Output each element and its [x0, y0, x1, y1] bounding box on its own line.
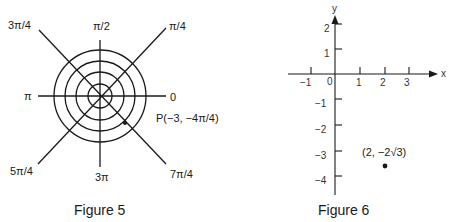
- label-3pi4: 3π/4: [8, 19, 31, 31]
- x-tick-label-1: 1: [356, 77, 362, 88]
- x-axis-label: x: [441, 68, 446, 79]
- label-pi2: π/2: [93, 20, 110, 32]
- label-zero: 0: [170, 91, 176, 103]
- x-tick-label--1: −1: [300, 77, 312, 88]
- label-7pi4: 7π/4: [170, 168, 193, 180]
- y-axis-arrow-icon: [332, 15, 339, 24]
- label-3pi: 3π: [95, 171, 109, 183]
- y-tick-label-2: 2: [324, 23, 330, 34]
- x-tick-label-2: 2: [380, 77, 386, 88]
- label-pi4: π/4: [169, 20, 186, 32]
- point-p-label: P(−3, −4π/4): [156, 112, 219, 124]
- figure-5: [38, 28, 166, 167]
- point-label: (2, −2√3): [362, 146, 406, 158]
- y-tick-label--4: −4: [315, 175, 327, 186]
- figure-6-caption: Figure 6: [318, 202, 370, 218]
- y-tick-label--1: −1: [315, 98, 327, 109]
- y-tick-label-1: 1: [324, 48, 330, 59]
- x-axis-arrow-icon: [429, 71, 438, 78]
- figure-6: [288, 22, 432, 195]
- y-axis-label: y: [332, 3, 337, 14]
- figures-canvas: 3π/4 π/2 π/4 π 0 P(−3, −4π/4) 5π/4 3π 7π…: [0, 0, 449, 222]
- y-tick-label--3: −3: [315, 150, 327, 161]
- origin-label: 0: [327, 76, 333, 87]
- x-tick-label-3: 3: [404, 77, 410, 88]
- point-p-marker: [123, 121, 127, 125]
- label-pi: π: [24, 90, 32, 102]
- y-tick-label--2: −2: [315, 124, 327, 135]
- point-marker: [383, 164, 388, 169]
- label-5pi4: 5π/4: [10, 165, 33, 177]
- figure-5-caption: Figure 5: [74, 202, 126, 218]
